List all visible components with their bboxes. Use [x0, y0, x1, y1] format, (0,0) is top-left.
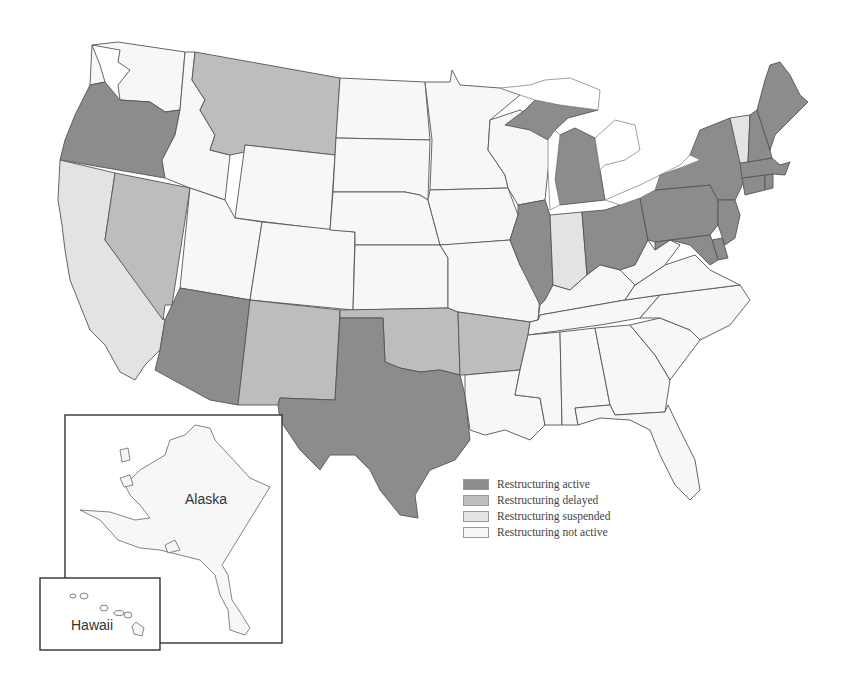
us-map: Alaska Hawaii: [0, 0, 854, 688]
state-pennsylvania: [640, 185, 718, 242]
state-indiana: [550, 212, 587, 290]
hawaii-inset: Hawaii: [40, 578, 160, 650]
legend-swatch-active: [463, 479, 489, 490]
legend-swatch-delayed: [463, 495, 489, 506]
state-kansas: [353, 245, 448, 310]
legend-item-suspended: Restructuring suspended: [463, 508, 610, 524]
legend-label: Restructuring delayed: [497, 494, 598, 506]
state-north-dakota: [336, 78, 430, 140]
state-montana: [192, 52, 340, 155]
lake-huron: [595, 120, 640, 170]
legend-swatch-not-active: [463, 527, 489, 538]
state-colorado: [250, 222, 355, 310]
state-south-dakota: [333, 138, 430, 200]
legend-label: Restructuring not active: [497, 526, 608, 538]
legend-item-active: Restructuring active: [463, 476, 610, 492]
hawaii-label: Hawaii: [71, 617, 113, 633]
state-rhode-island: [765, 174, 773, 190]
legend: Restructuring active Restructuring delay…: [463, 476, 610, 540]
alaska-label: Alaska: [185, 491, 227, 507]
state-arizona: [155, 288, 250, 405]
legend-swatch-suspended: [463, 511, 489, 522]
legend-label: Restructuring active: [497, 478, 590, 490]
state-new-mexico: [238, 300, 340, 405]
legend-item-not-active: Restructuring not active: [463, 524, 610, 540]
alaska-island-st-lawrence: [120, 448, 130, 462]
legend-label: Restructuring suspended: [497, 510, 610, 522]
state-iowa: [428, 188, 518, 245]
state-wyoming: [235, 145, 335, 230]
legend-item-delayed: Restructuring delayed: [463, 492, 610, 508]
state-arkansas: [458, 312, 530, 375]
